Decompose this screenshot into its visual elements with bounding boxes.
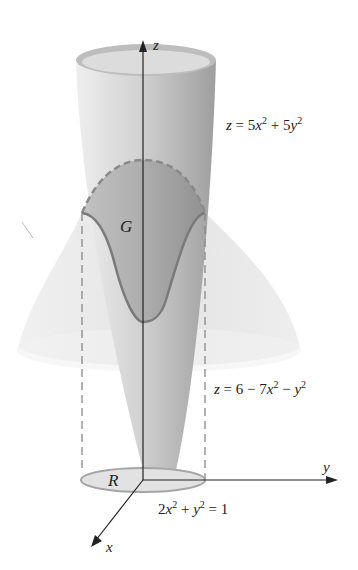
x-axis-label: x (106, 540, 113, 555)
3d-surfaces-diagram (0, 0, 358, 570)
z-axis-label: z (153, 38, 159, 53)
upper-surface-equation: z = 5x2 + 5y2 (226, 116, 302, 133)
x-axis-arrow-icon (91, 535, 102, 547)
region-r-label: R (108, 472, 118, 489)
y-axis-label: y (323, 460, 330, 475)
boundary-curve-equation: 2x2 + y2 = 1 (158, 500, 228, 517)
region-g-label: G (120, 218, 132, 235)
y-axis-arrow-icon (326, 476, 338, 484)
lower-surface-equation: z = 6 − 7x2 − y2 (214, 380, 306, 397)
figure-canvas: z y x G R z = 5x2 + 5y2 z = 6 − 7x2 − y2… (0, 0, 358, 570)
